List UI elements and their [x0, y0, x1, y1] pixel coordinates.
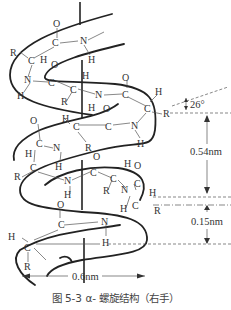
svg-text:C: C	[110, 173, 117, 184]
svg-text:C: C	[105, 121, 112, 132]
svg-text:R: R	[24, 261, 31, 272]
helix-ribbon-7	[60, 257, 72, 262]
svg-text:N: N	[95, 89, 102, 100]
svg-text:N: N	[131, 120, 138, 131]
svg-text:H: H	[120, 203, 127, 214]
svg-text:H: H	[55, 161, 62, 172]
svg-text:C: C	[52, 37, 59, 48]
svg-text:C: C	[58, 219, 65, 230]
svg-text:N: N	[64, 175, 71, 186]
svg-text:O: O	[122, 72, 129, 83]
pitch-label: 0.54nm	[190, 146, 222, 157]
svg-text:O: O	[51, 59, 58, 70]
svg-text:R: R	[14, 171, 21, 182]
svg-text:H: H	[155, 86, 162, 97]
svg-text:C: C	[134, 178, 141, 189]
angle-label: 26°	[190, 99, 205, 110]
svg-text:C: C	[30, 162, 37, 173]
svg-text:H: H	[40, 54, 47, 65]
svg-text:O: O	[57, 199, 64, 210]
svg-text:H: H	[149, 187, 156, 198]
svg-text:R: R	[163, 108, 170, 119]
svg-text:N: N	[80, 35, 87, 46]
svg-text:C: C	[24, 242, 31, 253]
svg-text:O: O	[134, 160, 141, 171]
svg-text:C: C	[48, 77, 55, 88]
diameter-label: 0.6nm	[72, 271, 99, 282]
svg-text:O: O	[93, 151, 100, 162]
svg-text:C: C	[70, 84, 77, 95]
svg-text:H: H	[102, 237, 109, 248]
svg-text:C: C	[132, 200, 139, 211]
svg-text:H: H	[88, 54, 95, 65]
svg-text:C: C	[144, 103, 151, 114]
svg-text:R: R	[154, 205, 161, 216]
svg-text:H: H	[124, 158, 131, 169]
diameter-annotation: 0.6nm	[22, 271, 145, 282]
rise-label: 0.15nm	[191, 216, 223, 227]
svg-text:R: R	[61, 96, 68, 107]
svg-text:H: H	[82, 70, 89, 81]
svg-text:N: N	[121, 184, 128, 195]
svg-text:C: C	[122, 89, 129, 100]
svg-text:N: N	[53, 142, 60, 153]
svg-text:C: C	[28, 55, 35, 66]
svg-text:O: O	[53, 18, 60, 29]
svg-text:C: C	[73, 121, 80, 132]
svg-text:C: C	[90, 167, 97, 178]
angle-annotation: 26°	[170, 87, 231, 113]
svg-text:O: O	[30, 115, 37, 126]
svg-text:H: H	[88, 102, 95, 113]
pitch-annotation: 0.54nm	[153, 115, 231, 197]
svg-text:H: H	[25, 148, 32, 159]
svg-text:H: H	[8, 231, 15, 242]
alpha-helix-diagram: O C N H R C H O N H C H C N R H O C O H …	[0, 0, 231, 310]
svg-text:H: H	[64, 189, 71, 200]
svg-text:N: N	[24, 74, 31, 85]
svg-text:H: H	[62, 113, 69, 124]
svg-text:N: N	[101, 216, 108, 227]
svg-text:R: R	[10, 47, 17, 58]
svg-text:R: R	[85, 142, 92, 153]
svg-text:C: C	[36, 138, 43, 149]
svg-text:H: H	[17, 90, 24, 101]
svg-text:O: O	[103, 103, 110, 114]
svg-text:R: R	[103, 185, 110, 196]
svg-text:H: H	[137, 138, 144, 149]
figure-caption: 图 5-3 α- 螺旋结构（右手）	[0, 290, 231, 305]
